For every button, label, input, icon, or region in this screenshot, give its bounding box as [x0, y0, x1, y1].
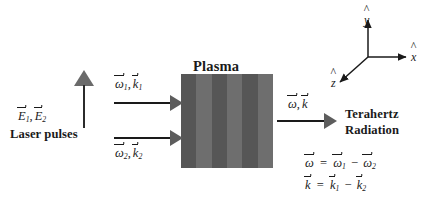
- beam-in-1-label: ω1,k1: [115, 76, 142, 92]
- equation-k: k = k1 − k2: [305, 177, 366, 193]
- plasma-stripe: [181, 74, 196, 168]
- terahertz-line-2: Radiation: [345, 123, 399, 139]
- efield-label: E1,E2: [18, 108, 46, 124]
- plasma-stripe: [242, 74, 257, 168]
- axis-z-line: [340, 57, 368, 82]
- beam-out-arrow: [277, 113, 339, 129]
- omega-2-symbol: ω: [115, 145, 124, 161]
- figure-canvas: Plasma E1,E2 Laser pulses ω1,k1 ω2,k2 ω,…: [0, 0, 440, 207]
- axis-y-label-text: y: [364, 13, 369, 28]
- beam-in-1-separator: ,: [128, 77, 131, 91]
- eq-k-equals: =: [317, 178, 324, 192]
- beam-in-2-arrow-head: [170, 130, 183, 146]
- omega-1-symbol: ω: [115, 76, 124, 92]
- eq-omega-minus: −: [351, 156, 358, 170]
- efield-arrow: [74, 70, 94, 128]
- beam-out-separator: ,: [297, 97, 300, 111]
- plasma-title: Plasma: [193, 58, 239, 75]
- k-2-symbol: k: [133, 145, 139, 161]
- axis-z-label: z: [331, 76, 336, 91]
- eq-omega-equals: =: [320, 156, 327, 170]
- terahertz-radiation-caption: Terahertz Radiation: [345, 107, 399, 138]
- eq-k-term-2: k: [357, 177, 363, 193]
- plasma-stripe: [227, 74, 242, 168]
- omega-out-symbol: ω: [288, 96, 297, 112]
- beam-in-1-arrow-head: [170, 95, 183, 111]
- eq-k-term-2-sub: 2: [362, 184, 366, 193]
- beam-in-2-arrow-shaft: [114, 137, 171, 139]
- eq-k-minus: −: [344, 178, 351, 192]
- beam-in-2-separator: ,: [128, 146, 131, 160]
- plasma-stripe: [212, 74, 227, 168]
- plasma-stripe: [258, 74, 273, 168]
- k-1-sub: 1: [138, 83, 142, 92]
- efield-1-symbol: E: [18, 108, 26, 124]
- beam-out-label: ω,k: [288, 96, 308, 112]
- eq-omega-term-1: ω: [333, 155, 342, 171]
- efield-2-symbol: E: [35, 108, 43, 124]
- plasma-stripe: [196, 74, 211, 168]
- eq-k-term-1-sub: 1: [335, 184, 339, 193]
- eq-k-term-1: k: [330, 177, 336, 193]
- beam-in-1-arrow: [114, 95, 183, 111]
- efield-separator: ,: [30, 109, 33, 123]
- equation-omega: ω = ω1 − ω2: [305, 155, 376, 171]
- k-1-symbol: k: [133, 76, 139, 92]
- axis-x-label-text: x: [411, 50, 416, 65]
- k-2-sub: 2: [138, 152, 142, 161]
- k-out-symbol: k: [302, 96, 308, 112]
- plasma-slab: [181, 74, 273, 168]
- eq-omega-lhs: ω: [305, 155, 314, 171]
- axis-x-label: x: [411, 50, 416, 65]
- coordinate-axes: [320, 2, 440, 92]
- efield-arrow-shaft: [83, 85, 85, 128]
- efield-arrow-head: [74, 70, 94, 86]
- laser-pulses-caption: Laser pulses: [10, 127, 78, 142]
- eq-omega-term-1-sub: 1: [342, 162, 346, 171]
- terahertz-line-1: Terahertz: [345, 107, 399, 123]
- axis-z-label-text: z: [331, 76, 336, 91]
- axis-y-label: y: [364, 13, 369, 28]
- beam-out-arrow-shaft: [277, 120, 325, 122]
- beam-out-arrow-head: [324, 113, 337, 129]
- eq-k-lhs: k: [305, 177, 311, 193]
- beam-in-1-arrow-shaft: [114, 102, 171, 104]
- beam-in-2-label: ω2,k2: [115, 145, 142, 161]
- eq-omega-term-2: ω: [363, 155, 372, 171]
- eq-omega-term-2-sub: 2: [372, 162, 376, 171]
- efield-2-sub: 2: [42, 115, 46, 124]
